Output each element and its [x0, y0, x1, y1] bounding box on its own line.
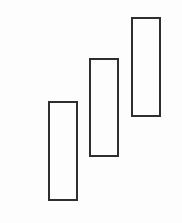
diagram-canvas [0, 0, 182, 223]
candle-body-1 [48, 101, 78, 201]
candle-body-2 [89, 58, 119, 157]
candle-body-3 [131, 17, 161, 117]
